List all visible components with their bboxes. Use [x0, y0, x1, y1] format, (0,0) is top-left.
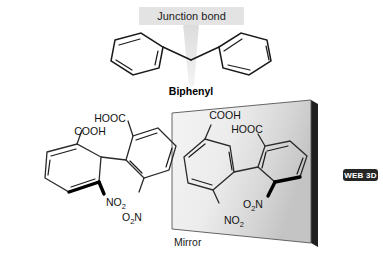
left-mol-ring-a-double-bonds — [48, 149, 95, 187]
mirror-panel-depth-edge — [311, 100, 318, 247]
right-mol-hooc-label: HOOC — [231, 123, 263, 135]
figure-canvas: Junction bond Biphenyl Mirror — [0, 0, 383, 260]
left-mol-no2-label: NO2 — [106, 196, 126, 211]
callout-pointer — [183, 24, 199, 86]
left-mol-ring-a-bold-bond — [69, 182, 99, 192]
left-mol-ring-b-double-bonds — [130, 133, 172, 173]
web3d-badge[interactable]: WEB 3D — [343, 169, 378, 181]
biphenyl-right-ring-double-bonds — [224, 39, 269, 70]
left-mol-no2-bond — [99, 182, 104, 194]
left-mol-junction-bond — [101, 157, 126, 160]
biphenyl-caption: Biphenyl — [169, 85, 213, 97]
left-mol-o2n-label: O2N — [122, 211, 142, 226]
chemistry-figure: Junction bond Biphenyl Mirror — [0, 0, 383, 260]
left-mol-o2n-bond — [139, 178, 144, 192]
right-mol-cooh-label: COOH — [209, 109, 241, 121]
mirror-label: Mirror — [174, 236, 202, 248]
biphenyl-left-ring-double-bonds — [116, 39, 158, 70]
left-mol-hooc-label: HOOC — [94, 112, 126, 124]
callout-label: Junction bond — [157, 10, 226, 22]
left-mol-hooc-bond — [128, 121, 133, 136]
left-enantiomer-structure: HOOC COOH NO2 O2N — [45, 112, 176, 226]
left-mol-cooh-label: COOH — [74, 125, 106, 137]
web3d-badge-label: WEB 3D — [344, 171, 376, 180]
